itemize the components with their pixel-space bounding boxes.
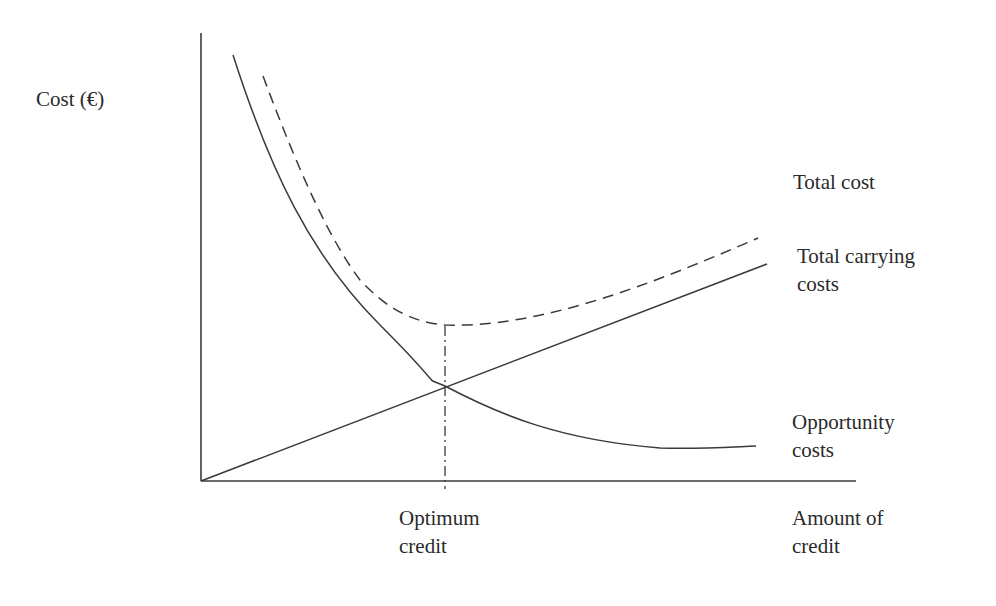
x-axis-label-line1: Amount of bbox=[792, 506, 884, 531]
x-axis-label-line2: credit bbox=[792, 534, 840, 559]
optimum-credit-label-line2: credit bbox=[399, 534, 447, 559]
carrying-costs-label-line1: Total carrying bbox=[797, 244, 915, 269]
opportunity-costs-curve bbox=[233, 55, 756, 448]
opportunity-costs-label-line2: costs bbox=[792, 438, 834, 463]
y-axis-label: Cost (€) bbox=[36, 87, 104, 112]
opportunity-costs-label-line1: Opportunity bbox=[792, 410, 895, 435]
optimum-credit-label-line1: Optimum bbox=[399, 506, 480, 531]
total-cost-curve bbox=[263, 76, 758, 325]
carrying-costs-label-line2: costs bbox=[797, 272, 839, 297]
total-cost-label: Total cost bbox=[793, 170, 875, 195]
